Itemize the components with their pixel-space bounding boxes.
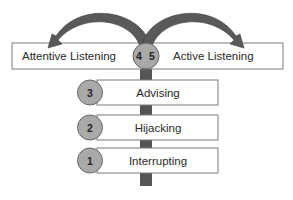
- level-5-number: 5: [149, 50, 155, 62]
- level-label: Hijacking: [135, 122, 182, 134]
- listening-levels-diagram: Attentive Listening Active Listening 4 5…: [0, 0, 293, 200]
- level-number: 2: [87, 122, 93, 134]
- active-listening-label: Active Listening: [173, 50, 254, 62]
- level-number: 3: [87, 87, 93, 99]
- level-row-hijacking: 2 Hijacking: [78, 115, 219, 140]
- level-label: Interrupting: [129, 155, 187, 167]
- level-number: 1: [87, 155, 93, 167]
- level-row-advising: 3 Advising: [78, 80, 219, 105]
- level-label: Advising: [136, 87, 179, 99]
- level-row-interrupting: 1 Interrupting: [78, 148, 219, 173]
- attentive-listening-label: Attentive Listening: [22, 50, 116, 62]
- level-4-number: 4: [136, 50, 142, 62]
